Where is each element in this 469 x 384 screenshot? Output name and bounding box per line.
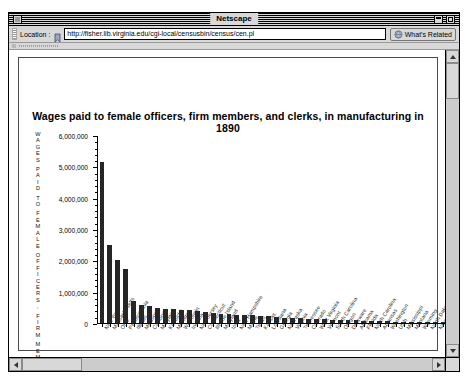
bar-slot — [106, 136, 114, 323]
bar-slot — [416, 136, 424, 323]
y-minor-tick — [95, 149, 97, 150]
vertical-scrollbar[interactable] — [445, 50, 459, 357]
whats-related-button[interactable]: What's Related — [390, 28, 456, 41]
y-tick-label: 4,000,000 — [59, 195, 88, 202]
bar-slot — [408, 136, 416, 323]
y-minor-tick — [95, 274, 97, 275]
bar-slot — [423, 136, 431, 323]
bar-slot — [241, 136, 249, 323]
y-tick-label: 2,000,000 — [59, 258, 88, 265]
y-minor-tick — [95, 142, 97, 143]
horizontal-scroll-thumb[interactable] — [22, 358, 82, 371]
bar-slot — [162, 136, 170, 323]
y-minor-tick — [95, 224, 97, 225]
bar-slot — [138, 136, 146, 323]
bar-slot — [209, 136, 217, 323]
bookmark-icon[interactable] — [53, 29, 62, 39]
bar-slot — [98, 136, 106, 323]
y-minor-tick — [95, 161, 97, 162]
bar-slot — [169, 136, 177, 323]
y-axis-label: WAGESPAIDTOFEMALEOFFICERS,FIRMMEMBERS — [32, 131, 44, 371]
bar-slot — [392, 136, 400, 323]
scroll-right-button[interactable] — [432, 358, 445, 371]
bar-slot — [201, 136, 209, 323]
bar-slot — [281, 136, 289, 323]
bar-slot — [360, 136, 368, 323]
bar-slot — [344, 136, 352, 323]
bar-slot — [304, 136, 312, 323]
y-minor-tick — [95, 192, 97, 193]
y-tick-label: 6,000,000 — [59, 133, 88, 140]
chart-frame: Wages paid to female officers, firm memb… — [18, 57, 438, 351]
bar-slot — [233, 136, 241, 323]
y-tick: 2,000,000 — [93, 261, 97, 262]
y-tick: 4,000,000 — [93, 199, 97, 200]
window-titlebar[interactable]: Netscape — [9, 13, 459, 26]
bar-slot — [336, 136, 344, 323]
y-minor-tick — [95, 243, 97, 244]
location-label: Location : — [20, 31, 50, 38]
scroll-left-button[interactable] — [9, 358, 22, 371]
scrollbar-corner — [445, 357, 459, 371]
y-minor-tick — [95, 280, 97, 281]
y-minor-tick — [95, 255, 97, 256]
personal-toolbar-divider — [19, 45, 59, 47]
vertical-scroll-thumb[interactable] — [446, 63, 459, 99]
bar-slot — [320, 136, 328, 323]
y-tick: 5,000,000 — [93, 167, 97, 168]
y-minor-tick — [95, 217, 97, 218]
y-minor-tick — [95, 180, 97, 181]
personal-toolbar-grip[interactable] — [12, 44, 16, 48]
bar-slot — [328, 136, 336, 323]
bar-slot — [225, 136, 233, 323]
y-minor-tick — [95, 311, 97, 312]
scroll-down-button[interactable] — [446, 344, 459, 357]
arrow-right-icon — [437, 362, 441, 368]
bar-slot — [289, 136, 297, 323]
toolbar-grip-handle[interactable] — [12, 28, 17, 40]
y-minor-tick — [95, 299, 97, 300]
collapse-icon[interactable] — [434, 15, 443, 24]
y-tick-label: 0 — [84, 321, 88, 328]
personal-toolbar — [9, 43, 459, 50]
y-tick: 3,000,000 — [93, 230, 97, 231]
y-minor-tick — [95, 305, 97, 306]
y-minor-tick — [95, 155, 97, 156]
bar-slot — [265, 136, 273, 323]
bar-slot — [352, 136, 360, 323]
bar-slot — [193, 136, 201, 323]
close-icon[interactable] — [13, 15, 22, 24]
chart-title: Wages paid to female officers, firm memb… — [19, 110, 437, 134]
plot-area: 01,000,0002,000,0003,000,0004,000,0005,0… — [97, 136, 455, 324]
bar-slot — [122, 136, 130, 323]
bar-slot — [249, 136, 257, 323]
url-input[interactable]: http://fisher.lib.virginia.edu/cgi-local… — [64, 28, 385, 40]
zoom-icon[interactable] — [446, 15, 455, 24]
bar-slot — [146, 136, 154, 323]
bar-slot — [185, 136, 193, 323]
y-minor-tick — [95, 236, 97, 237]
bar-slot — [114, 136, 122, 323]
y-minor-tick — [95, 268, 97, 269]
bar-slot — [400, 136, 408, 323]
scroll-up-button[interactable] — [446, 50, 459, 63]
y-minor-tick — [95, 211, 97, 212]
y-tick-label: 3,000,000 — [59, 227, 88, 234]
bar-slot — [154, 136, 162, 323]
bar-slot — [384, 136, 392, 323]
horizontal-scrollbar[interactable] — [9, 357, 445, 371]
bar-slot — [312, 136, 320, 323]
bar-slot — [296, 136, 304, 323]
y-minor-tick — [95, 174, 97, 175]
whats-related-label: What's Related — [405, 31, 452, 38]
bar-slot — [177, 136, 185, 323]
y-minor-tick — [95, 286, 97, 287]
bar-slot — [368, 136, 376, 323]
arrow-down-icon — [450, 349, 456, 353]
y-tick: 1,000,000 — [93, 293, 97, 294]
arrow-up-icon — [450, 55, 456, 59]
window-title: Netscape — [210, 13, 258, 25]
page-content: Wages paid to female officers, firm memb… — [9, 50, 459, 371]
bar-slot — [273, 136, 281, 323]
arrow-left-icon — [14, 362, 18, 368]
